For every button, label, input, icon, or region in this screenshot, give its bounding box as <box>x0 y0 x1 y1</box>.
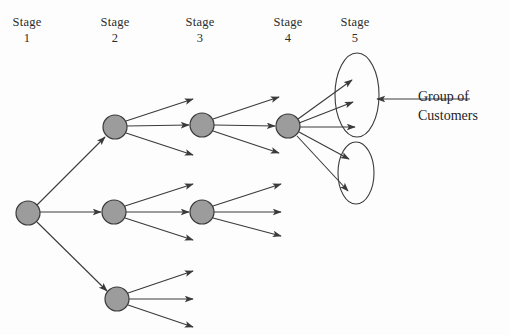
stage-label-word: Stage <box>325 14 385 30</box>
edge-arrow <box>127 125 189 126</box>
stage-label-3: Stage3 <box>170 14 230 46</box>
stage-label-number: 5 <box>325 30 385 46</box>
stage-label-4: Stage4 <box>258 14 318 46</box>
stage-label-number: 1 <box>0 30 57 46</box>
edge-arrow <box>125 184 193 206</box>
stage-label-word: Stage <box>85 14 145 30</box>
stage-node <box>103 115 127 139</box>
stage-label-1: Stage1 <box>0 14 57 46</box>
edge-arrow <box>128 305 193 327</box>
tree-diagram-svg <box>0 0 509 335</box>
customer-groups-layer <box>335 53 379 204</box>
stage-node <box>190 200 214 224</box>
stage-label-number: 2 <box>85 30 145 46</box>
stage-label-number: 3 <box>170 30 230 46</box>
edge-arrow <box>213 218 281 236</box>
stage-node <box>276 114 300 138</box>
group-of-customers-label: Group of Customers <box>418 88 478 126</box>
stage-label-word: Stage <box>0 14 57 30</box>
edge-arrow <box>126 133 193 155</box>
edge-arrow <box>214 125 275 126</box>
stage-label-number: 4 <box>258 30 318 46</box>
stage-label-5: Stage5 <box>325 14 385 46</box>
stage-label-word: Stage <box>170 14 230 30</box>
edge-arrow <box>37 222 107 291</box>
edge-arrow <box>128 271 193 293</box>
customer-group-ellipse <box>338 142 374 204</box>
edge-arrow <box>37 137 105 205</box>
stage-node <box>190 113 214 137</box>
edge-arrow <box>126 99 193 121</box>
callout-line-1: Group of <box>418 88 478 107</box>
edge-arrow <box>213 131 279 153</box>
edge-arrow <box>213 97 279 119</box>
callout-line-2: Customers <box>418 107 478 126</box>
stage-label-word: Stage <box>258 14 318 30</box>
stage-node <box>105 287 129 311</box>
stage-node <box>102 200 126 224</box>
edge-arrow <box>125 218 193 240</box>
stage-label-2: Stage2 <box>85 14 145 46</box>
edge-arrow <box>213 184 281 206</box>
stage-node <box>16 201 40 225</box>
customer-group-ellipse <box>335 53 379 137</box>
diagram-canvas: Stage1Stage2Stage3Stage4Stage5 Group of … <box>0 0 509 335</box>
